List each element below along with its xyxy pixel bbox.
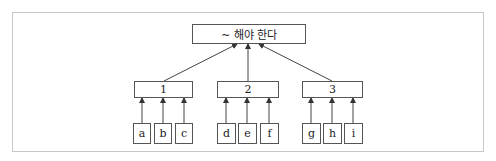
group-node-1: 1	[134, 81, 193, 98]
root-node: ~ 해야 한다	[192, 24, 306, 44]
leaf-node-g: g	[302, 123, 321, 144]
leaf-node-i: i	[344, 123, 363, 144]
leaf-node-b: b	[154, 123, 172, 144]
leaf-node-a: a	[133, 123, 151, 144]
leaf-node-h: h	[323, 123, 342, 144]
leaf-node-c: c	[175, 123, 193, 144]
group-node-2: 2	[217, 81, 279, 98]
leaf-node-e: e	[238, 123, 257, 144]
leaf-node-d: d	[217, 123, 236, 144]
leaf-node-f: f	[260, 123, 279, 144]
group-node-3: 3	[302, 81, 363, 98]
